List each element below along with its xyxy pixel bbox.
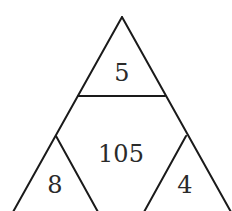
center-cell-value: 105 [98, 140, 144, 168]
bottom-left-cell-value: 8 [47, 171, 62, 199]
bottom-right-cell-value: 4 [177, 171, 192, 199]
outer-left-edge [13, 17, 122, 211]
triangle-diagram: 5 105 8 4 [0, 0, 232, 211]
top-cell-value: 5 [114, 59, 129, 87]
